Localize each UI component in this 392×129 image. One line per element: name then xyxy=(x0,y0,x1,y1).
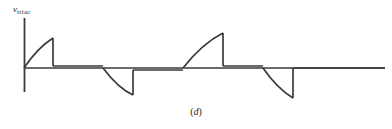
figure-caption: (d) xyxy=(0,106,392,117)
segment-rise-2 xyxy=(183,33,223,68)
segment-rise-1 xyxy=(24,38,53,68)
segment-fall-2 xyxy=(263,68,293,98)
triac-voltage-figure: vtriac (d) xyxy=(0,0,392,129)
caption-close-paren: ) xyxy=(199,106,202,117)
y-axis-subscript: triac xyxy=(17,8,30,16)
segment-fall-1 xyxy=(103,68,133,95)
y-axis-label: vtriac xyxy=(13,4,31,16)
waveform-trace xyxy=(24,33,385,98)
